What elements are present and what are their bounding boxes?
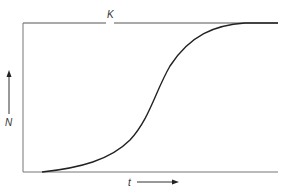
n-arrow-icon [7,70,12,77]
t-label: t [128,177,132,188]
t-arrow-icon [172,180,179,185]
logistic-curve [42,23,278,172]
logistic-chart: K N t [0,0,295,190]
n-label: N [5,117,13,128]
